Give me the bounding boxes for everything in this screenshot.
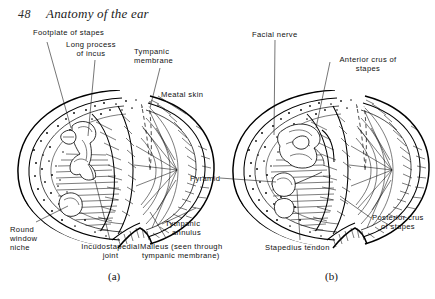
label-malleus-line2: tympanic membrane) bbox=[142, 251, 220, 260]
label-round-window-niche-line1: Round bbox=[10, 225, 34, 234]
label-footplate-of-stapes: Footplate of stapes bbox=[33, 28, 104, 37]
label-facial-nerve: Facial nerve bbox=[252, 30, 298, 39]
figure-a-membrane-fibres bbox=[134, 108, 178, 234]
label-posterior-crus-of-stapes-line1: Posterior crus bbox=[372, 213, 424, 222]
label-pyramid: Pyramid bbox=[190, 174, 220, 183]
label-round-window-niche-line2: window bbox=[10, 234, 37, 243]
leader-malleus bbox=[150, 212, 166, 238]
label-tympanic-membrane-line2: membrane bbox=[134, 56, 173, 65]
figure-a-attic bbox=[92, 106, 136, 236]
label-tympanic-annulus-line2: annulus bbox=[172, 228, 201, 237]
figure-b-stapedius-tendon bbox=[295, 172, 322, 184]
figure-b-caption: (b) bbox=[325, 270, 338, 282]
label-anterior-crus-of-stapes-line1: Anterior crus of bbox=[325, 55, 411, 64]
label-anterior-crus-of-stapes-line2: stapes bbox=[325, 64, 411, 73]
label-tympanic-membrane-line1: Tympanic bbox=[134, 47, 169, 56]
textbook-page: 48 Anatomy of the ear bbox=[0, 0, 435, 299]
label-posterior-crus-of-stapes-line2: of stapes bbox=[381, 222, 415, 231]
figure-b-attic bbox=[307, 106, 351, 236]
figure-b-pyramid bbox=[272, 173, 295, 197]
leader-stapedius-tendon bbox=[297, 190, 300, 240]
label-meatal-skin: Meatal skin bbox=[161, 90, 203, 99]
leader-posterior-crus-of-stapes bbox=[340, 196, 371, 218]
figure-b-round-window bbox=[274, 198, 294, 218]
label-round-window-niche-line3: niche bbox=[10, 243, 30, 252]
label-long-process-of-incus-line1: Long process bbox=[55, 40, 127, 49]
label-stapedius-tendon: Stapedius tendon bbox=[265, 243, 330, 252]
figure-b-inferior-fold bbox=[327, 223, 367, 248]
figure-a-caption: (a) bbox=[108, 270, 120, 282]
label-tympanic-annulus-line1: Tympanic bbox=[165, 219, 200, 228]
leader-facial-nerve bbox=[274, 40, 275, 135]
label-long-process-of-incus-line2: of incus bbox=[55, 49, 127, 58]
figure-a-round-window-niche bbox=[59, 193, 82, 217]
label-malleus-line1: Malleus (seen through bbox=[140, 242, 223, 251]
leader-round-window-niche bbox=[36, 206, 68, 222]
leader-incudostapedial-joint bbox=[95, 180, 110, 240]
figure-a-ossicles bbox=[61, 122, 96, 181]
leader-pyramid bbox=[220, 178, 276, 182]
